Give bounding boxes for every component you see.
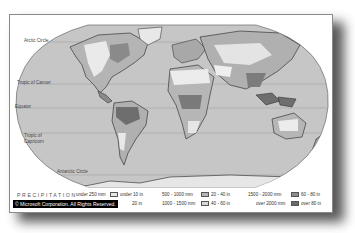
equator-label: Equator bbox=[15, 105, 31, 110]
legend-mm-1000-1500: 1000 - 1500 mm bbox=[162, 200, 195, 207]
legend-in-60-80: 60 - 80 in bbox=[301, 191, 320, 198]
copyright-notice: © Microsoft Corporation. All Rights Rese… bbox=[13, 200, 118, 208]
legend-in-10-20: 20 in bbox=[132, 200, 142, 207]
precipitation-map-frame: Arctic Circle Tropic of Cancer Equator T… bbox=[9, 14, 333, 213]
legend-mm-500-1000: 500 - 1000 mm bbox=[162, 191, 193, 198]
legend-swatch-under-10 bbox=[110, 192, 118, 197]
legend-in-40-60: 40 - 60 in bbox=[211, 200, 230, 207]
tropic-of-cancer-label: Tropic of Cancer bbox=[17, 81, 51, 86]
legend-title: PRECIPITATION bbox=[17, 192, 77, 198]
legend-swatch-40-60 bbox=[201, 201, 209, 206]
legend-mm-1500-2000: 1500 - 2000 mm bbox=[248, 191, 281, 198]
tropic-of-capricorn-label-1: Tropic of bbox=[24, 134, 42, 139]
world-map bbox=[10, 15, 332, 189]
legend-mm-under-250: under 250 mm bbox=[76, 191, 106, 198]
antarctic-circle-label: Antarctic Circle bbox=[57, 170, 88, 175]
legend-swatch-60-80 bbox=[291, 192, 299, 197]
legend-mm-over-2000: over 2000 mm bbox=[256, 200, 285, 207]
tropic-of-capricorn-label-2: Capricorn bbox=[24, 140, 44, 145]
legend-in-20-40: 20 - 40 in bbox=[211, 191, 230, 198]
legend-in-under-10: under 10 in bbox=[120, 191, 143, 198]
precipitation-legend: PRECIPITATION © Microsoft Corporation. A… bbox=[10, 189, 332, 213]
legend-swatch-over-80 bbox=[291, 201, 299, 206]
legend-swatch-20-40 bbox=[201, 192, 209, 197]
arctic-circle-label: Arctic Circle bbox=[24, 39, 49, 44]
legend-in-over-80: over 80 in bbox=[301, 200, 321, 207]
